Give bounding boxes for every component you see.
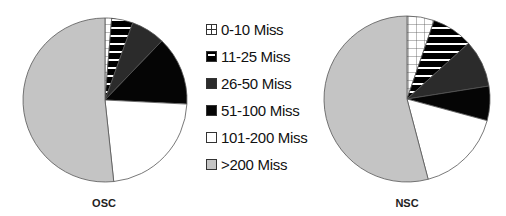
legend-item-26-50: 26-50 Miss — [206, 70, 307, 97]
black-swatch-icon — [206, 105, 217, 116]
legend: 0-10 Miss 11-25 Miss 26-50 Miss 51-100 M… — [206, 16, 307, 178]
legend-item-0-10: 0-10 Miss — [206, 16, 307, 43]
nsc-pie — [324, 16, 490, 182]
legend-item-11-25: 11-25 Miss — [206, 43, 307, 70]
grid-swatch-icon — [206, 24, 217, 35]
osc-pie — [23, 18, 187, 182]
white-swatch-icon — [206, 132, 217, 143]
pie-slice — [105, 100, 187, 182]
legend-item-over-200: >200 Miss — [206, 151, 307, 178]
legend-item-101-200: 101-200 Miss — [206, 124, 307, 151]
lightgray-swatch-icon — [206, 159, 217, 170]
stripe-swatch-icon — [206, 51, 217, 62]
legend-item-51-100: 51-100 Miss — [206, 97, 307, 124]
darkgray-swatch-icon — [206, 78, 217, 89]
nsc-label: NSC — [367, 197, 447, 209]
osc-label: OSC — [64, 197, 144, 209]
pie-slice — [23, 18, 114, 182]
